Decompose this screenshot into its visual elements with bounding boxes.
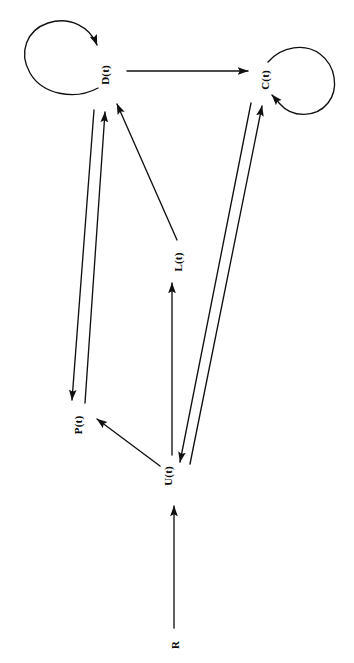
node-label-c: C(t) [259, 68, 272, 92]
node-label-p: P(t) [72, 414, 85, 437]
diagram-canvas: D(t) C(t) P(t) U(t) R L(t) [0, 0, 354, 663]
self-loop-edge-c [268, 47, 335, 114]
edge-u-to-d-upper [117, 104, 177, 240]
diagram-vector-layer [0, 0, 354, 663]
edge-label-l: L(t) [172, 250, 185, 273]
node-label-r: R [169, 639, 182, 651]
edge-c-to-u [180, 103, 251, 462]
node-label-d: D(t) [99, 63, 112, 87]
edge-d-to-p [72, 110, 94, 400]
edge-u-to-p [97, 419, 160, 466]
edge-u-to-c [190, 106, 262, 464]
node-label-u: U(t) [162, 464, 175, 488]
edge-p-to-d [85, 112, 105, 403]
self-loop-edge-d [25, 21, 98, 95]
